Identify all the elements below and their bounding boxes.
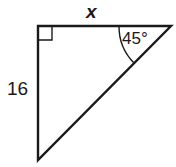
geometry-figure: x 16 45° [0,0,176,167]
side-label-top: x [86,2,97,21]
right-angle-square-icon [39,27,52,40]
angle-label-45: 45° [122,30,148,47]
side-label-left: 16 [7,79,28,98]
triangle-outline [38,26,171,160]
